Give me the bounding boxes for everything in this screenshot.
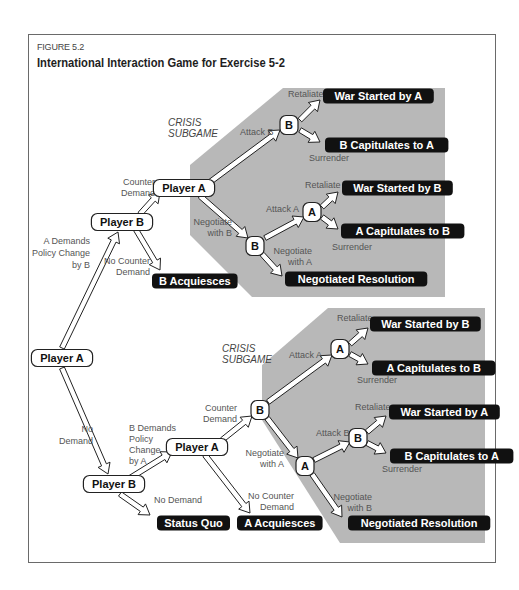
outcome-label: War Started by A — [334, 90, 422, 102]
node-b-neg1: B — [246, 237, 264, 256]
node-label: Player B — [100, 216, 144, 228]
node-label: Player B — [92, 478, 136, 490]
outcome-label: B Capitulates to A — [340, 139, 434, 151]
outcome-label: Negotiated Resolution — [298, 273, 415, 285]
node-label: B — [354, 432, 362, 444]
edge-label-surrender-1b: Surrender — [332, 242, 372, 252]
game-tree-diagram: CRISISSUBGAME CRISISSUBGAME A DemandsPol… — [0, 0, 519, 590]
outcome-a-cap-2: A Capitulates to B — [372, 361, 495, 376]
outcome-label: War Started by B — [353, 182, 441, 194]
node-a2: Player A — [166, 439, 227, 456]
node-label: B — [256, 404, 264, 416]
node-b1: Player B — [91, 214, 152, 231]
edge-label-retaliate-1a: Retaliate — [288, 89, 324, 99]
node-b-crisis2: B — [349, 429, 367, 448]
node-a-neg2: A — [296, 457, 314, 476]
crisis-label-bottom: CRISISSUBGAME — [222, 343, 272, 365]
edge-label-no-counter-2: No CounterDemand — [248, 491, 294, 512]
edge-label-a-demands: A DemandsPolicy Changeby B — [32, 236, 91, 270]
outcome-war-b-1: War Started by B — [342, 181, 453, 196]
node-b-crisis1: B — [280, 116, 298, 135]
node-label: Player A — [40, 352, 84, 364]
node-label: B — [251, 240, 259, 252]
outcome-b-acq: B Acquiesces — [152, 274, 238, 289]
edge-label-retaliate-2a: Retaliate — [337, 313, 373, 323]
edge-label-no-counter-1: No CounterDemand — [104, 256, 150, 277]
arrow-no-demand-2 — [119, 492, 151, 515]
outcome-label: Status Quo — [164, 517, 223, 529]
node-b-counter2: B — [251, 401, 269, 420]
outcome-label: Negotiated Resolution — [361, 517, 478, 529]
outcome-war-a-1: War Started by A — [323, 89, 434, 104]
outcome-neg-2: Negotiated Resolution — [348, 516, 490, 531]
node-label: A — [336, 343, 344, 355]
node-root: Player A — [31, 350, 92, 367]
node-b2: Player B — [83, 476, 144, 493]
outcome-b-cap-2: B Capitulates to A — [390, 449, 513, 464]
edge-label-surrender-1a: Surrender — [309, 153, 349, 163]
edge-label-attack-b-1: Attack B — [240, 127, 274, 137]
node-label: B — [285, 119, 293, 131]
edge-label-surrender-2b: Surrender — [382, 464, 422, 474]
outcome-label: A Capitulates to B — [387, 362, 481, 374]
edge-label-counter-demand-1: CounterDemand — [121, 177, 155, 198]
arrow-no-counter-2 — [203, 453, 250, 513]
outcome-a-cap-1: A Capitulates to B — [341, 224, 464, 239]
node-label: Player A — [162, 182, 206, 194]
outcome-a-acq: A Acquiesces — [237, 516, 323, 531]
node-a1: Player A — [153, 180, 214, 197]
edge-label-attack-a-1: Attack A — [266, 204, 299, 214]
outcome-label: A Acquiesces — [244, 517, 315, 529]
arrow-no-demand — [60, 367, 110, 474]
edge-label-counter-demand-2: CounterDemand — [203, 403, 237, 424]
node-a-crisis1: A — [303, 203, 321, 222]
node-a-crisis2: A — [331, 340, 349, 359]
edge-label-negotiate-a-2: Negotiatewith A — [245, 448, 284, 469]
edge-label-no-demand-2: No Demand — [154, 495, 202, 505]
outcome-label: A Capitulates to B — [356, 225, 450, 237]
edge-label-surrender-2a: Surrender — [357, 375, 397, 385]
outcome-war-a-2: War Started by A — [389, 405, 500, 420]
outcome-label: B Capitulates to A — [405, 450, 499, 462]
outcome-neg-1: Negotiated Resolution — [285, 272, 427, 287]
outcome-label: War Started by B — [381, 318, 469, 330]
outcome-status-quo: Status Quo — [157, 516, 230, 531]
outcome-label: War Started by A — [400, 406, 488, 418]
edge-label-attack-b-2: Attack B — [316, 428, 350, 438]
edge-label-retaliate-2b: Retaliate — [355, 402, 391, 412]
node-label: A — [301, 460, 309, 472]
outcome-label: B Acquiesces — [159, 275, 231, 287]
crisis-label-top: CRISISSUBGAME — [168, 117, 218, 139]
edge-label-attack-a-2: Attack A — [289, 350, 322, 360]
edge-label-retaliate-1b: Retaliate — [305, 180, 341, 190]
outcome-b-cap-1: B Capitulates to A — [325, 138, 448, 153]
node-label: A — [308, 206, 316, 218]
outcome-war-b-2: War Started by B — [370, 317, 481, 332]
node-label: Player A — [175, 441, 219, 453]
